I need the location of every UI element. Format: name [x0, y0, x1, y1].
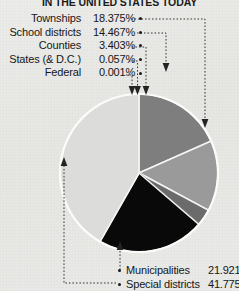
legend-value-special-districts: 41.775%: [202, 278, 239, 290]
bullet-dot-icon: [139, 72, 142, 75]
bullet-dot-icon: [139, 17, 142, 20]
callout-row-states: States (& D.C.) 0.057%: [0, 53, 142, 67]
callout-value-counties: 3.403%: [86, 39, 135, 51]
callout-row-townships: Townships 18.375%: [0, 12, 142, 26]
callout-label-school-districts: School districts: [9, 26, 81, 38]
callout-label-counties: Counties: [39, 39, 81, 51]
callout-row-federal: Federal 0.001%: [0, 66, 142, 80]
callout-label-townships: Townships: [31, 12, 81, 24]
callout-row-counties: Counties 3.403%: [0, 39, 142, 53]
legend-row-special-districts: Special districts 41.775%: [118, 278, 239, 291]
callout-label-federal: Federal: [45, 66, 81, 78]
legend-row-municipalities: Municipalities 21.921%: [118, 264, 239, 278]
callout-label-states: States (& D.C.): [9, 53, 81, 65]
bullet-dot-icon: [139, 58, 142, 61]
callout-label-list: Townships 18.375% School districts 14.46…: [0, 12, 142, 80]
callout-value-townships: 18.375%: [86, 12, 135, 24]
bullet-dot-icon: [139, 31, 142, 34]
pie-chart-figure: IN THE UNITED STATES TODAY Townships: [0, 0, 239, 291]
callout-row-school-districts: School districts 14.467%: [0, 26, 142, 40]
callout-value-states: 0.057%: [86, 53, 135, 65]
legend-label-municipalities: Municipalities: [126, 264, 202, 276]
callout-value-school-districts: 14.467%: [86, 26, 135, 38]
legend-value-municipalities: 21.921%: [202, 264, 239, 276]
bullet-dot-icon: [118, 283, 121, 286]
bullet-dot-icon: [118, 269, 121, 272]
callout-value-federal: 0.001%: [86, 66, 135, 78]
bullet-dot-icon: [139, 44, 142, 47]
bottom-legend: Municipalities 21.921% Special districts…: [118, 264, 239, 291]
legend-label-special-districts: Special districts: [126, 278, 202, 290]
